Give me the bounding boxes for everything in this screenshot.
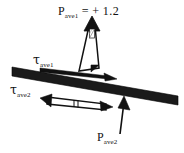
label-p-ave2-symbol: P [97,130,104,144]
beam [12,67,178,105]
label-tau-ave2: τave2 [10,81,31,97]
diagram-canvas [0,0,184,153]
label-tau-ave1: τave1 [33,51,54,67]
label-p-ave1-value: + 1.2 [92,4,119,18]
label-p-ave1-symbol: P [58,4,65,18]
label-tau-ave2-symbol: τ [10,82,17,97]
p-ave1-vector [79,16,100,72]
label-p-ave2-subscript: ave2 [104,138,118,146]
p-ave2-vector [118,96,130,134]
label-tau-ave2-subscript: ave2 [17,91,31,99]
label-tau-ave1-subscript: ave1 [40,61,54,69]
tau-ave2-vector [40,94,113,111]
label-p-ave1-subscript: ave1 [65,12,79,20]
label-p-ave1-equals: = [82,4,89,18]
beam-force-diagram: Pave1 = + 1.2 τave1 τave2 Pave2 [0,0,184,153]
label-p-ave2: Pave2 [97,128,117,144]
label-p-ave1: Pave1 = + 1.2 [58,2,119,18]
p-ave1-hatch-marker [90,29,95,38]
label-tau-ave1-symbol: τ [33,52,40,67]
